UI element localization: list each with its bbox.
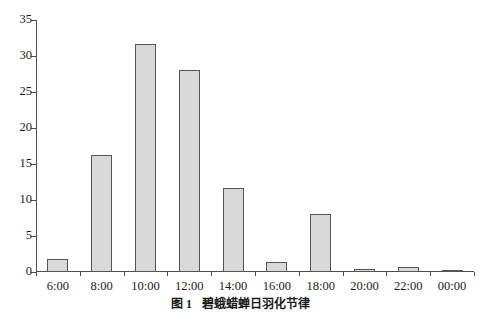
x-tick-mark: [430, 272, 431, 276]
y-tick-label: 20: [4, 120, 32, 134]
x-tick-mark: [474, 272, 475, 276]
bar: [135, 44, 156, 272]
y-tick-label: 5: [4, 228, 32, 242]
bar: [223, 188, 244, 272]
y-tick-label: 15: [4, 156, 32, 170]
x-tick-label: 22:00: [394, 279, 422, 294]
x-tick-mark: [80, 272, 81, 276]
bar: [354, 269, 375, 272]
bar: [266, 262, 287, 272]
bar: [47, 259, 68, 272]
x-tick-mark: [386, 272, 387, 276]
x-tick-mark: [299, 272, 300, 276]
bar: [91, 155, 112, 272]
x-tick-mark: [255, 272, 256, 276]
x-tick-mark: [211, 272, 212, 276]
caption-label: 图 1: [171, 297, 192, 311]
figure: 05101520253035 6:008:0010:0012:0014:0016…: [0, 0, 481, 316]
x-tick-mark: [36, 272, 37, 276]
y-tick-label: 10: [4, 192, 32, 206]
x-tick-mark: [124, 272, 125, 276]
y-tick-label: 25: [4, 84, 32, 98]
bar: [179, 70, 200, 272]
x-tick-label: 8:00: [91, 279, 113, 294]
figure-caption: 图 1碧蛾蜡蝉日羽化节律: [0, 296, 481, 312]
x-tick-label: 10:00: [131, 279, 159, 294]
bar-series: [36, 20, 474, 272]
y-tick-label: 35: [4, 12, 32, 26]
y-tick-label: 0: [4, 264, 32, 278]
x-tick-label: 00:00: [438, 279, 466, 294]
bar: [398, 267, 419, 272]
y-tick-label: 30: [4, 48, 32, 62]
x-tick-mark: [167, 272, 168, 276]
x-tick-label: 6:00: [47, 279, 69, 294]
x-tick-label: 18:00: [306, 279, 334, 294]
bar: [442, 270, 463, 272]
x-tick-label: 12:00: [175, 279, 203, 294]
x-tick-label: 16:00: [263, 279, 291, 294]
caption-title: 碧蛾蜡蝉日羽化节律: [202, 297, 310, 311]
bar: [310, 214, 331, 272]
x-tick-mark: [343, 272, 344, 276]
x-tick-label: 20:00: [350, 279, 378, 294]
x-tick-label: 14:00: [219, 279, 247, 294]
